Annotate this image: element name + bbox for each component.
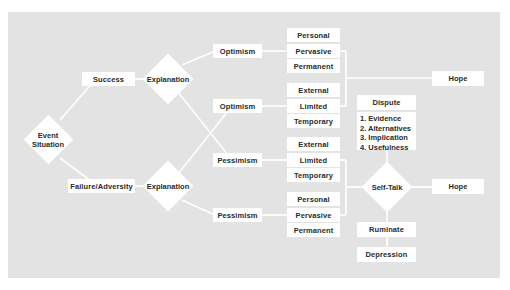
event-label-line1: Event: [38, 131, 58, 140]
event-situation-label: Event Situation: [23, 130, 73, 150]
attr-permanent-1: Permanent: [287, 59, 340, 73]
attr-limited-1: Limited: [287, 99, 340, 113]
attr-pervasive-1: Pervasive: [287, 44, 340, 58]
pessimism-node-middle: Pessimism: [213, 153, 262, 167]
success-node: Success: [82, 72, 135, 86]
attr-external-1: External: [287, 83, 340, 97]
attr-temporary-1: Temporary: [287, 114, 340, 128]
dispute-step-implication: 3. Implication: [360, 133, 416, 143]
event-label-line2: Situation: [32, 140, 64, 149]
attr-pervasive-2: Pervasive: [287, 208, 340, 222]
dispute-step-usefulness: 4. Usefulness: [360, 143, 416, 153]
attr-permanent-2: Permanent: [287, 223, 340, 237]
hope-node-top: Hope: [432, 71, 484, 86]
explanation-label-bottom: Explanation: [143, 180, 193, 192]
explanation-label-top: Explanation: [143, 73, 193, 85]
ruminate-node: Ruminate: [357, 222, 416, 237]
optimism-node-middle: Optimism: [213, 99, 262, 113]
dispute-node: Dispute: [357, 95, 416, 110]
dispute-steps-list: 1. Evidence 2. Alternatives 3. Implicati…: [357, 112, 416, 150]
hope-node-right: Hope: [432, 179, 484, 194]
attr-personal-2: Personal: [287, 192, 340, 206]
attr-personal-1: Personal: [287, 28, 340, 42]
dispute-step-alternatives: 2. Alternatives: [360, 124, 416, 134]
attr-external-2: External: [287, 137, 340, 151]
dispute-step-evidence: 1. Evidence: [360, 114, 416, 124]
attr-limited-2: Limited: [287, 153, 340, 167]
self-talk-label: Self-Talk: [362, 181, 412, 193]
depression-node: Depression: [357, 247, 416, 262]
pessimism-node-bottom: Pessimism: [213, 208, 262, 222]
attr-temporary-2: Temporary: [287, 168, 340, 182]
optimism-node-top: Optimism: [213, 44, 262, 58]
failure-adversity-node: Failure/Adversity: [68, 179, 135, 193]
